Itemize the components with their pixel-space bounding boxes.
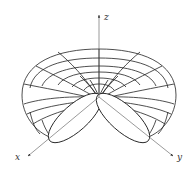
y-axis — [99, 97, 173, 156]
x-axis — [28, 97, 99, 156]
z-axis-label: z — [104, 13, 109, 22]
figure: z x y — [0, 0, 188, 173]
x-axis-label: x — [15, 153, 20, 162]
radiation-pattern-diagram — [0, 0, 188, 173]
y-axis-label: y — [177, 153, 182, 162]
